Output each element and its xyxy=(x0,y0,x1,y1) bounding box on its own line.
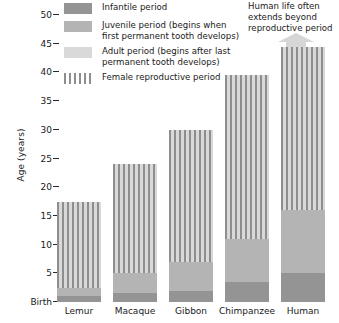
bar-human xyxy=(281,47,325,302)
segment-juvenile xyxy=(57,288,101,297)
y-tick-5: 5 xyxy=(0,267,52,279)
legend-swatch-infantile-icon xyxy=(64,3,92,14)
segment-female-reproductive-period xyxy=(169,130,213,262)
segment-infantile xyxy=(281,273,325,302)
y-tick-15: 15 xyxy=(0,210,52,222)
stacked-bar xyxy=(225,75,269,302)
stacked-bar xyxy=(113,164,157,302)
bar-gibbon xyxy=(169,130,213,302)
y-tick-label: 25 xyxy=(41,154,52,164)
segment-infantile xyxy=(169,291,213,302)
y-tick-30: 30 xyxy=(0,124,52,136)
segment-juvenile xyxy=(225,239,269,282)
primate-life-stages-chart: Age (years) 5045403530252015105Birth Inf… xyxy=(0,0,339,323)
bar-macaque xyxy=(113,164,157,302)
segment-juvenile xyxy=(169,262,213,291)
bar-chimpanzee xyxy=(225,75,269,302)
y-tick-50: 50 xyxy=(0,9,52,21)
segment-female-reproductive-period xyxy=(225,75,269,239)
y-tick-25: 25 xyxy=(0,153,52,165)
y-tick-label: 20 xyxy=(41,182,52,192)
y-tick-45: 45 xyxy=(0,38,52,50)
stacked-bar xyxy=(281,47,325,302)
y-tick-label: 5 xyxy=(46,268,52,278)
legend-label: Infantile period xyxy=(102,2,244,13)
segment-juvenile xyxy=(281,210,325,273)
y-tick-35: 35 xyxy=(0,95,52,107)
segment-infantile xyxy=(57,296,101,302)
segment-infantile xyxy=(113,293,157,302)
stacked-bar xyxy=(169,130,213,302)
y-tick-label: 35 xyxy=(41,96,52,106)
segment-juvenile xyxy=(113,273,157,293)
segment-female-reproductive-period xyxy=(57,202,101,288)
y-tick-label: 15 xyxy=(41,211,52,221)
plot-area: LemurMacaqueGibbonChimpanzeeHuman xyxy=(55,15,339,302)
segment-infantile xyxy=(225,282,269,302)
stacked-bar xyxy=(57,202,101,302)
y-tick-label: 45 xyxy=(41,39,52,49)
y-tick-label: 40 xyxy=(41,67,52,77)
y-tick-label: 50 xyxy=(41,10,52,20)
segment-female-reproductive-period xyxy=(281,47,325,211)
y-tick-20: 20 xyxy=(0,181,52,193)
y-tick-10: 10 xyxy=(0,239,52,251)
x-axis-label-human: Human xyxy=(266,306,339,316)
y-tick-label: 10 xyxy=(41,240,52,250)
y-tick-40: 40 xyxy=(0,66,52,78)
bar-lemur xyxy=(57,202,101,302)
segment-female-reproductive-period xyxy=(113,164,157,273)
y-tick-label: 30 xyxy=(41,125,52,135)
